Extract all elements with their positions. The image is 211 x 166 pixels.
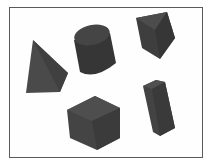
cylinder-shape [72, 21, 116, 74]
rectangular-prism-shape [143, 80, 175, 136]
shapes-illustration [0, 0, 211, 166]
image-canvas [0, 0, 211, 166]
cube-shape [67, 96, 120, 150]
triangular-prism-shape [136, 12, 175, 59]
pyramid-shape [26, 40, 68, 93]
